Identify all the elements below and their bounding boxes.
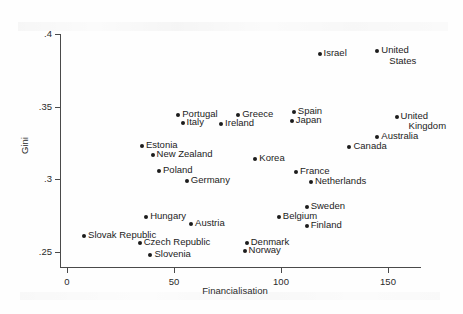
data-point-label: Ireland [225, 118, 254, 129]
data-point [138, 241, 142, 245]
data-point-label: Poland [163, 165, 193, 176]
data-point-label: UnitedKingdom [401, 111, 447, 132]
x-tick-mark [174, 268, 175, 273]
data-point-label: New Zealand [157, 149, 213, 160]
x-tick-mark [281, 268, 282, 273]
y-tick-label: .35 [26, 101, 52, 112]
data-point [305, 205, 309, 209]
data-point-label: Slovenia [154, 249, 190, 260]
data-point-label: UnitedStates [381, 45, 416, 66]
data-point [176, 113, 180, 117]
y-tick-label: .3 [26, 173, 52, 184]
x-tick-mark [388, 268, 389, 273]
data-point [219, 122, 223, 126]
data-point [157, 169, 161, 173]
scatter-plot-figure: .25.3.35.4 050100150 Gini Financialisati… [0, 0, 463, 314]
y-tick-mark [55, 252, 60, 253]
data-point [151, 153, 155, 157]
data-point [144, 215, 148, 219]
x-tick-label: 150 [368, 276, 408, 287]
data-point [181, 121, 185, 125]
data-point-label: Norway [249, 245, 281, 256]
data-point [253, 157, 257, 161]
data-point [305, 224, 309, 228]
y-tick-mark [55, 107, 60, 108]
data-point-label: Italy [187, 117, 204, 128]
data-point-label: Israel [324, 48, 347, 59]
data-point [290, 119, 294, 123]
data-point [318, 52, 322, 56]
data-point [140, 144, 144, 148]
x-tick-label: 0 [47, 276, 87, 287]
data-point [375, 135, 379, 139]
data-point-label: Canada [353, 141, 386, 152]
data-point [277, 215, 281, 219]
y-axis-line [60, 34, 61, 268]
data-point [347, 145, 351, 149]
data-point [294, 170, 298, 174]
scan-artifact-top [18, 22, 448, 31]
data-point-label: Austria [195, 218, 225, 229]
data-point-label: Czech Republic [144, 237, 211, 248]
data-point-label: Germany [191, 175, 230, 186]
data-point [82, 234, 86, 238]
y-tick-label: .25 [26, 246, 52, 257]
data-point [395, 115, 399, 119]
y-tick-label: .4 [26, 28, 52, 39]
data-point [309, 180, 313, 184]
data-point [189, 222, 193, 226]
data-point-label: Japan [296, 115, 322, 126]
y-axis-title: Gini [19, 116, 30, 176]
x-tick-mark [67, 268, 68, 273]
data-point [375, 49, 379, 53]
data-point [148, 253, 152, 257]
data-point-label: Korea [259, 153, 284, 164]
x-axis-line [60, 267, 421, 268]
x-axis-title: Financialisation [175, 285, 295, 296]
data-point [185, 179, 189, 183]
y-tick-mark [55, 179, 60, 180]
data-point-label: Netherlands [315, 176, 366, 187]
y-tick-mark [55, 34, 60, 35]
data-point-label: Finland [311, 220, 342, 231]
data-point-label: Hungary [150, 211, 186, 222]
data-point [243, 249, 247, 253]
